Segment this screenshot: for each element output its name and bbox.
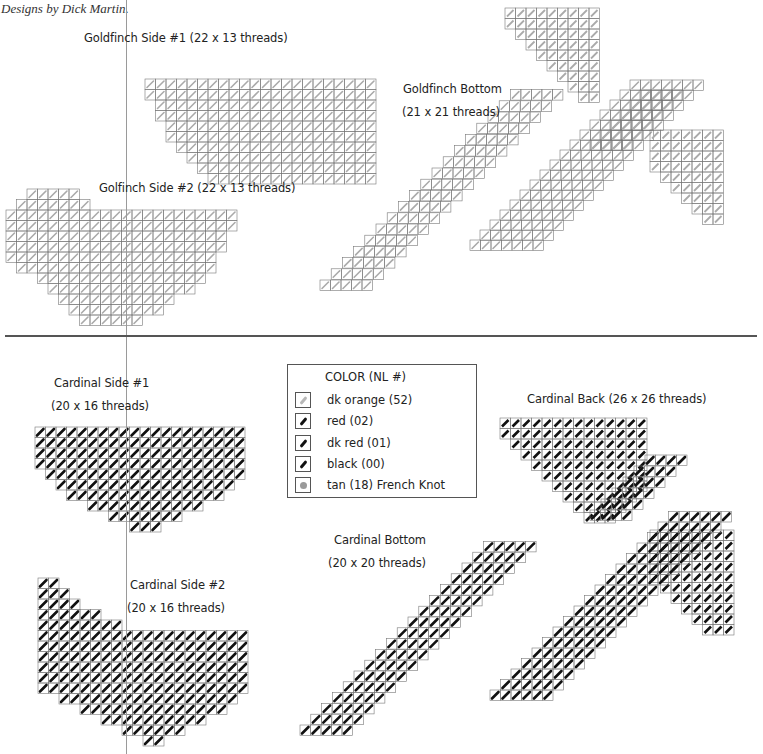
cardinal-side1-size: (20 x 16 threads): [51, 399, 149, 413]
section-divider: [5, 335, 757, 337]
cardinal-bottom-size: (20 x 20 threads): [328, 556, 426, 570]
color-key-title: COLOR (NL #): [325, 370, 406, 384]
stitch-swatch-icon: [295, 456, 311, 472]
cardinal-side2-size: (20 x 16 threads): [127, 601, 225, 615]
stitch-swatch-icon: [295, 392, 311, 408]
color-key-item: red (02): [295, 411, 373, 431]
color-key-item: dk orange (52): [295, 390, 412, 410]
cardinal-side1-title: Cardinal Side #1: [54, 376, 149, 390]
cardinal-back-label: Cardinal Back (26 x 26 threads): [527, 392, 706, 406]
stitch-swatch-icon: [295, 413, 311, 429]
goldfinch-side2-label: Golfinch Side #2 (22 x 13 threads): [99, 181, 295, 195]
goldfinch-bottom-title: Goldfinch Bottom: [403, 82, 502, 96]
stitch-swatch-icon: [295, 435, 311, 451]
goldfinch-side1-label: Goldfinch Side #1 (22 x 13 threads): [84, 31, 288, 45]
color-key-item: tan (18) French Knot: [295, 475, 445, 495]
color-key: COLOR (NL #) dk orange (52) red (02) dk …: [287, 364, 477, 498]
french-knot-swatch-icon: [295, 477, 311, 493]
color-key-item: black (00): [295, 454, 385, 474]
cardinal-side2-title: Cardinal Side #2: [130, 578, 225, 592]
color-key-item: dk red (01): [295, 433, 391, 453]
cardinal-bottom-title: Cardinal Bottom: [334, 533, 426, 547]
goldfinch-bottom-size: (21 x 21 threads): [402, 105, 500, 119]
